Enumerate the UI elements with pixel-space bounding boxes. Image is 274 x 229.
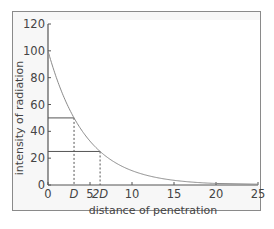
x-axis-title: distance of penetration [89, 204, 217, 217]
decay-chart: 0510152025020406080100120 D 2D distance … [0, 0, 274, 229]
y-tick-label: 120 [23, 17, 45, 31]
x-tick-label: 0 [44, 187, 51, 201]
x-tick-label: 20 [209, 187, 224, 201]
y-tick-label: 0 [38, 178, 45, 192]
y-tick-label: 80 [30, 71, 45, 85]
y-tick-label: 60 [30, 98, 45, 112]
y-tick-label: 20 [30, 151, 45, 165]
x-tick-label: 10 [125, 187, 140, 201]
y-tick-label: 40 [30, 124, 45, 138]
y-axis-title: intensity of radiation [13, 61, 26, 175]
label-2d: 2D [92, 187, 108, 201]
x-tick-label: 25 [251, 187, 266, 201]
label-d: D [70, 187, 79, 201]
plot-area [48, 20, 260, 185]
y-tick-label: 100 [23, 44, 45, 58]
x-tick-label: 15 [167, 187, 182, 201]
